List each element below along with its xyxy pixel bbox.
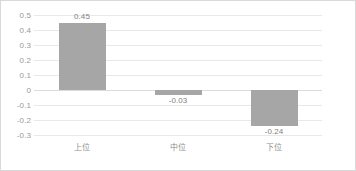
- x-axis-category-label: 下位: [234, 141, 314, 152]
- bar-value-label: 0.45: [52, 12, 112, 21]
- x-axis-category-label: 上位: [42, 141, 122, 152]
- bar: [59, 23, 106, 91]
- x-axis: 上位中位下位: [34, 141, 322, 161]
- y-axis-tick-label: 0.5: [1, 11, 31, 20]
- bar-chart: 0.50.40.30.20.10-0.1-0.2-0.3 0.45-0.03-0…: [0, 0, 356, 171]
- y-axis-tick-label: 0: [1, 86, 31, 95]
- y-axis-tick-label: 0.2: [1, 56, 31, 65]
- x-axis-category-label: 中位: [138, 141, 218, 152]
- bar-value-label: -0.24: [244, 127, 304, 136]
- y-axis-tick-label: -0.1: [1, 101, 31, 110]
- y-axis-tick-label: 0.3: [1, 41, 31, 50]
- y-axis-tick-label: 0.1: [1, 71, 31, 80]
- plot-area: 0.45-0.03-0.24: [34, 15, 322, 135]
- bar: [251, 90, 298, 126]
- y-axis-tick-label: -0.2: [1, 116, 31, 125]
- y-axis-tick-label: -0.3: [1, 131, 31, 140]
- bar-value-label: -0.03: [148, 96, 208, 105]
- bar: [155, 90, 202, 95]
- y-axis-tick-label: 0.4: [1, 26, 31, 35]
- y-axis: 0.50.40.30.20.10-0.1-0.2-0.3: [1, 1, 31, 171]
